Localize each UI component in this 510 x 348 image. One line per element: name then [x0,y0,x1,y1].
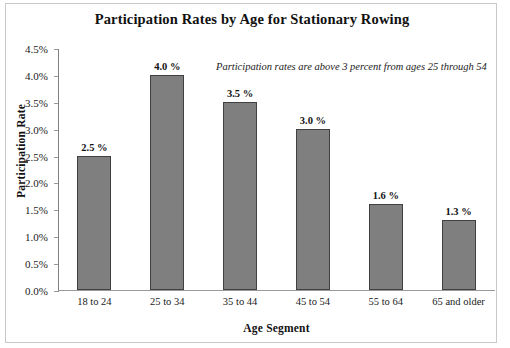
bar[interactable]: 1.6 % [369,204,403,290]
bar[interactable]: 2.5 % [77,156,111,290]
x-axis-category-label: 35 to 44 [223,296,257,307]
y-axis-tick: 0.5% [54,264,58,265]
bar-group[interactable]: 3.5 %35 to 44 [223,102,257,290]
bar[interactable]: 3.0 % [296,129,330,290]
bar[interactable]: 4.0 % [150,75,184,290]
bar-value-label: 2.5 % [81,142,107,153]
y-axis-line [58,49,59,292]
y-axis-tick: 4.0% [54,76,58,77]
x-axis-category-label: 45 to 54 [296,296,330,307]
y-axis-tick-label: 0.0% [25,285,48,297]
plot-area: 0.0%0.5%1.0%1.5%2.0%2.5%3.0%3.5%4.0%4.5%… [58,49,495,291]
bar-value-label: 3.0 % [300,115,326,126]
x-axis-title: Age Segment [58,322,495,334]
y-axis-tick-label: 3.5% [25,97,48,109]
bar-value-label: 3.5 % [227,88,253,99]
y-axis-tick: 0.0% [54,291,58,292]
chart-title: Participation Rates by Age for Stationar… [6,11,498,28]
bar[interactable]: 3.5 % [223,102,257,290]
y-axis-tick-label: 4.5% [25,43,48,55]
y-axis-tick: 3.0% [54,130,58,131]
y-axis-tick: 1.5% [54,210,58,211]
y-axis-tick: 3.5% [54,103,58,104]
y-axis-tick-label: 2.0% [25,177,48,189]
x-axis-category-label: 55 to 64 [369,296,403,307]
bar-value-label: 1.6 % [373,190,399,201]
y-axis-tick-label: 1.0% [25,231,48,243]
y-axis-tick: 2.5% [54,157,58,158]
y-axis-tick-label: 3.0% [25,124,48,136]
y-axis-tick: 1.0% [54,237,58,238]
x-axis-category-label: 18 to 24 [77,296,111,307]
bar-group[interactable]: 4.0 %25 to 34 [150,75,184,290]
bar-value-label: 4.0 % [154,61,180,72]
x-axis-category-label: 25 to 34 [150,296,184,307]
bar[interactable]: 1.3 % [442,220,476,290]
bar-group[interactable]: 1.3 %65 and older [442,220,476,290]
y-axis-tick: 4.5% [54,49,58,50]
y-axis-tick-label: 0.5% [25,258,48,270]
x-axis-category-label: 65 and older [432,296,485,307]
bar-value-label: 1.3 % [445,206,471,217]
x-axis-line [58,290,495,291]
chart-frame: Participation Rates by Age for Stationar… [5,3,497,343]
y-axis-tick-label: 4.0% [25,70,48,82]
y-axis-tick: 2.0% [54,183,58,184]
y-axis-tick-label: 1.5% [25,204,48,216]
bar-group[interactable]: 1.6 %55 to 64 [369,204,403,290]
bar-group[interactable]: 3.0 %45 to 54 [296,129,330,290]
y-axis-tick-label: 2.5% [25,151,48,163]
bar-group[interactable]: 2.5 %18 to 24 [77,156,111,290]
